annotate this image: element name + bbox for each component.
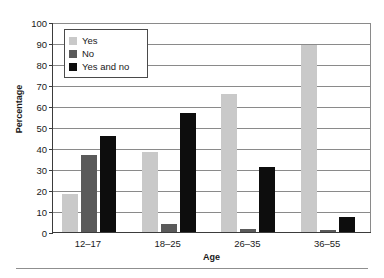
bar-chart-figure: Percentage 0102030405060708090100 12–171… — [0, 0, 384, 278]
legend-swatch-yes-and-no — [69, 63, 77, 71]
y-axis-tick-label: 70 — [36, 81, 47, 92]
y-axis-title: Percentage — [14, 64, 24, 154]
bar — [320, 230, 336, 232]
bar — [100, 136, 116, 232]
y-axis-tick-label: 10 — [36, 207, 47, 218]
y-axis-tick-label: 100 — [31, 18, 47, 29]
bar-group — [221, 23, 275, 232]
y-axis-tick-label: 20 — [36, 186, 47, 197]
legend-swatch-no — [69, 50, 77, 58]
bar — [221, 94, 237, 232]
x-axis-tick-label: 12–17 — [75, 238, 101, 249]
footer-divider — [16, 268, 368, 269]
chart-legend: Yes No Yes and no — [64, 29, 148, 78]
x-axis-tick-label: 26–35 — [234, 238, 260, 249]
y-axis-tick-label: 30 — [36, 165, 47, 176]
y-axis-tick-label: 50 — [36, 123, 47, 134]
bar — [180, 113, 196, 232]
bar — [339, 217, 355, 232]
bar — [259, 167, 275, 232]
bar-group — [301, 23, 355, 232]
y-axis-tick-label: 80 — [36, 60, 47, 71]
bar — [81, 155, 97, 232]
bar — [62, 194, 78, 232]
x-axis-tick-label: 18–25 — [154, 238, 180, 249]
bar — [301, 45, 317, 232]
legend-item-yes: Yes — [69, 34, 142, 47]
bar — [240, 229, 256, 232]
legend-label-no: No — [82, 49, 94, 59]
x-axis-title: Age — [52, 252, 371, 262]
bar-group — [142, 23, 196, 232]
y-axis-tick-mark — [49, 233, 53, 234]
bar — [161, 224, 177, 232]
legend-item-no: No — [69, 47, 142, 60]
legend-item-yes-and-no: Yes and no — [69, 60, 142, 73]
y-axis-tick-label: 60 — [36, 102, 47, 113]
x-axis-tick-label: 36–55 — [314, 238, 340, 249]
y-axis-tick-label: 0 — [42, 228, 47, 239]
y-axis-tick-label: 40 — [36, 144, 47, 155]
y-axis-tick-label: 90 — [36, 39, 47, 50]
legend-label-yes: Yes — [82, 36, 98, 46]
legend-swatch-yes — [69, 37, 77, 45]
bar — [142, 152, 158, 232]
legend-label-yes-and-no: Yes and no — [82, 62, 129, 72]
